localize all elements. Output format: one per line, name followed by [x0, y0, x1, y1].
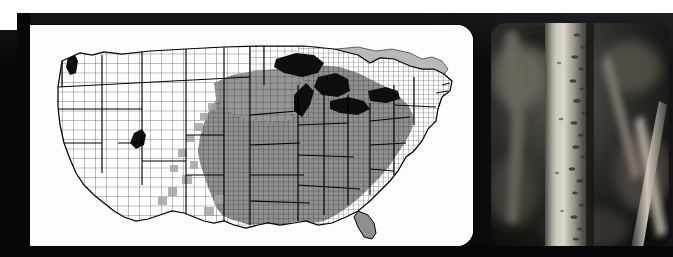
bark-photograph-graphic — [491, 23, 669, 248]
bark-photograph-panel — [491, 23, 669, 248]
us-county-map-graphic — [18, 25, 473, 246]
bottom-frame-rail — [0, 246, 673, 257]
figure-stage — [0, 0, 673, 257]
left-frame-riser — [17, 0, 30, 257]
top-white-band — [0, 0, 673, 13]
tree-stem — [545, 23, 594, 248]
top-left-corner-notch — [0, 0, 17, 30]
us-county-map-panel — [18, 25, 473, 246]
